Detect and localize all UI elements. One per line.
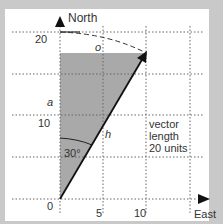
y-tick-0: 0 xyxy=(47,200,53,212)
opposite-label: o xyxy=(95,41,101,53)
x-tick-10: 10 xyxy=(134,207,146,219)
vector-caption-2: length xyxy=(149,130,179,142)
y-tick-20: 20 xyxy=(35,33,47,45)
vector-caption-3: 20 units xyxy=(149,142,188,154)
north-arrow-icon xyxy=(55,16,65,27)
north-label: North xyxy=(68,12,97,24)
arc-dashed xyxy=(60,32,146,53)
east-label: East xyxy=(194,208,216,220)
hypotenuse-label: h xyxy=(105,128,111,140)
x-tick-5: 5 xyxy=(96,207,102,219)
y-tick-10: 10 xyxy=(38,117,50,129)
adjacent-label: a xyxy=(47,96,53,108)
vector-caption-1: vector xyxy=(149,118,179,130)
angle-label: 30° xyxy=(64,147,81,159)
vector-diagram xyxy=(0,0,223,224)
east-arrow-icon xyxy=(198,194,210,204)
